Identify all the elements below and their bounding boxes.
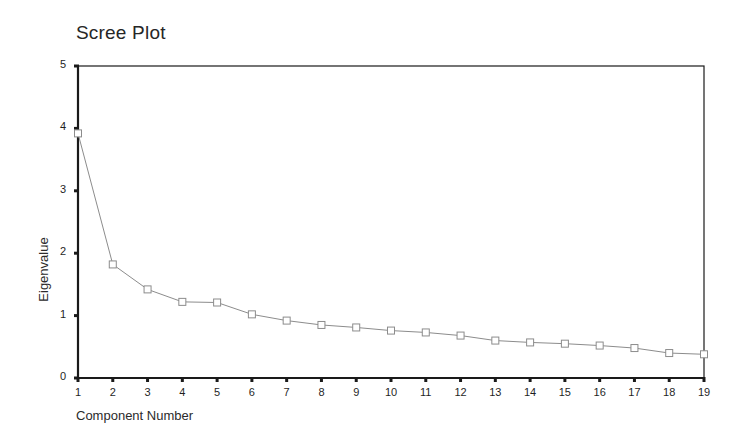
data-point-marker <box>457 332 464 339</box>
data-line <box>78 133 704 354</box>
data-point-marker <box>179 298 186 305</box>
data-point-marker <box>596 342 603 349</box>
y-tick-label: 1 <box>46 308 66 320</box>
y-tick-label: 3 <box>46 183 66 195</box>
data-point-marker <box>75 130 82 137</box>
x-tick-label: 5 <box>205 386 229 398</box>
x-tick-label: 4 <box>170 386 194 398</box>
x-tick-label: 7 <box>275 386 299 398</box>
data-point-marker <box>318 321 325 328</box>
x-tick-label: 9 <box>344 386 368 398</box>
x-tick-label: 19 <box>692 386 716 398</box>
data-point-marker <box>353 324 360 331</box>
x-tick-label: 3 <box>136 386 160 398</box>
y-tick-label: 5 <box>46 58 66 70</box>
data-point-marker <box>144 286 151 293</box>
x-tick-label: 18 <box>657 386 681 398</box>
data-point-marker <box>214 299 221 306</box>
y-tick-label: 0 <box>46 370 66 382</box>
x-tick-label: 1 <box>66 386 90 398</box>
data-point-marker <box>283 317 290 324</box>
x-tick-label: 10 <box>379 386 403 398</box>
plot-area <box>0 0 736 442</box>
x-tick-label: 17 <box>622 386 646 398</box>
y-tick-label: 2 <box>46 245 66 257</box>
x-tick-label: 8 <box>309 386 333 398</box>
data-point-marker <box>248 311 255 318</box>
data-point-marker <box>561 340 568 347</box>
data-point-marker <box>701 351 708 358</box>
x-tick-label: 6 <box>240 386 264 398</box>
scree-plot-figure: Scree Plot Eigenvalue Component Number 0… <box>0 0 736 442</box>
data-point-marker <box>492 337 499 344</box>
data-point-marker <box>527 339 534 346</box>
data-point-marker <box>422 329 429 336</box>
data-point-marker <box>666 350 673 357</box>
x-tick-label: 16 <box>588 386 612 398</box>
data-point-marker <box>631 345 638 352</box>
data-point-marker <box>388 327 395 334</box>
x-tick-label: 14 <box>518 386 542 398</box>
x-tick-label: 15 <box>553 386 577 398</box>
data-point-marker <box>109 261 116 268</box>
x-tick-label: 12 <box>449 386 473 398</box>
x-tick-label: 2 <box>101 386 125 398</box>
y-tick-label: 4 <box>46 120 66 132</box>
x-tick-label: 11 <box>414 386 438 398</box>
x-tick-label: 13 <box>483 386 507 398</box>
